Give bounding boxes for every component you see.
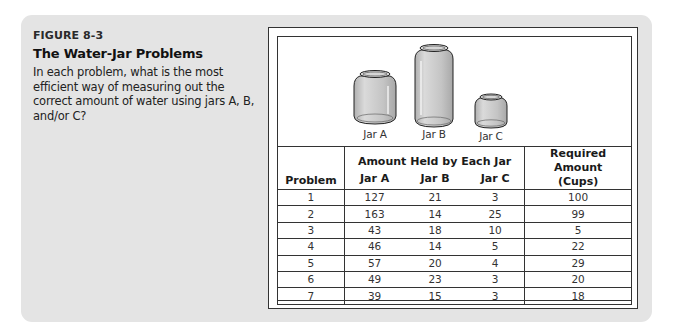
figure-caption: FIGURE 8-3 The Water-Jar Problems In eac…: [33, 29, 258, 123]
header-amount-held: Amount Held by Each Jar: [344, 147, 524, 169]
cell-problem: 3: [278, 222, 345, 238]
cell-jar-a: 127: [344, 190, 404, 206]
cell-jar-a: 43: [344, 222, 404, 238]
table-row: 2 163 14 25 99: [278, 206, 632, 222]
jar-b-label: Jar B: [409, 128, 459, 140]
cell-problem: 7: [278, 288, 345, 304]
header-required-line2: (Cups): [525, 175, 631, 189]
cell-problem: 1: [278, 190, 345, 206]
cell-required: 5: [525, 222, 632, 238]
cell-jar-a: 49: [344, 271, 404, 287]
cell-jar-c: 5: [466, 239, 525, 255]
jar-a-label: Jar A: [350, 128, 400, 140]
header-jar-a: Jar A: [344, 168, 404, 190]
figure-inner-frame: Jar A Jar B: [277, 36, 632, 301]
cell-problem: 6: [278, 271, 345, 287]
cell-problem: 2: [278, 206, 345, 222]
jar-c-label: Jar C: [466, 130, 516, 142]
cell-jar-a: 39: [344, 288, 404, 304]
jar-a-icon: [352, 68, 398, 126]
jar-illustration: Jar A Jar B: [278, 37, 631, 147]
cell-jar-c: 3: [466, 271, 525, 287]
cell-jar-c: 3: [466, 190, 525, 206]
cell-jar-b: 14: [404, 206, 466, 222]
figure-title: The Water-Jar Problems: [33, 46, 258, 62]
cell-jar-b: 23: [404, 271, 466, 287]
table-row: 7 39 15 3 18: [278, 288, 632, 304]
header-jar-b: Jar B: [404, 168, 466, 190]
cell-jar-a: 163: [344, 206, 404, 222]
jar-b-icon: [413, 43, 455, 129]
cell-required: 29: [525, 255, 632, 271]
header-required-amount: Required Amount (Cups): [525, 147, 632, 190]
cell-jar-b: 18: [404, 222, 466, 238]
cell-jar-c: 4: [466, 255, 525, 271]
cell-jar-b: 15: [404, 288, 466, 304]
header-problem: Problem: [278, 147, 345, 190]
cell-problem: 5: [278, 255, 345, 271]
cell-problem: 4: [278, 239, 345, 255]
cell-jar-a: 57: [344, 255, 404, 271]
water-jar-table: Problem Amount Held by Each Jar Required…: [277, 146, 632, 305]
figure-description: In each problem, what is the most effici…: [33, 65, 258, 123]
cell-required: 20: [525, 271, 632, 287]
cell-jar-a: 46: [344, 239, 404, 255]
table-row: 3 43 18 10 5: [278, 222, 632, 238]
cell-jar-b: 20: [404, 255, 466, 271]
cell-required: 99: [525, 206, 632, 222]
cell-jar-c: 25: [466, 206, 525, 222]
table-row: 1 127 21 3 100: [278, 190, 632, 206]
cell-required: 18: [525, 288, 632, 304]
cell-jar-b: 21: [404, 190, 466, 206]
cell-jar-b: 14: [404, 239, 466, 255]
header-required-line1: Required Amount: [525, 147, 631, 175]
cell-required: 100: [525, 190, 632, 206]
header-jar-c: Jar C: [466, 168, 525, 190]
table-row: 5 57 20 4 29: [278, 255, 632, 271]
cell-required: 22: [525, 239, 632, 255]
jar-c-icon: [473, 92, 509, 130]
table-row: 4 46 14 5 22: [278, 239, 632, 255]
cell-jar-c: 3: [466, 288, 525, 304]
figure-label: FIGURE 8-3: [33, 29, 258, 43]
table-row: 6 49 23 3 20: [278, 271, 632, 287]
cell-jar-c: 10: [466, 222, 525, 238]
